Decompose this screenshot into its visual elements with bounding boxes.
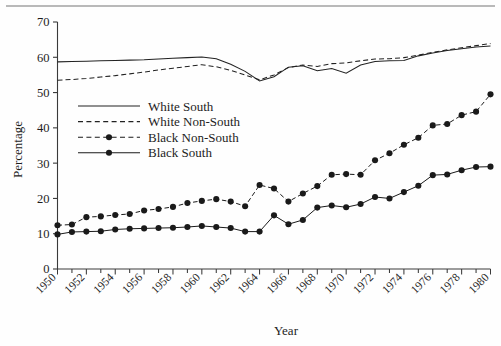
data-point [459,112,465,118]
y-axis-tick-label: 30 [37,157,50,171]
data-point [473,164,479,170]
data-point [430,172,436,178]
data-point [430,122,436,128]
x-axis-tick-label: 1954 [91,271,116,296]
series-line [58,44,491,81]
legend-item-label: Black Non-South [148,130,239,145]
data-point [98,213,104,219]
data-point [112,226,118,232]
legend-marker-sample [106,134,112,140]
y-axis-tick-label: 50 [37,86,50,100]
data-point [257,229,263,235]
data-point [257,182,263,188]
series-black-non-south [54,91,493,228]
data-point [358,172,364,178]
x-axis-tick-label: 1974 [380,271,405,296]
data-point [83,229,89,235]
x-axis-tick-label: 1964 [235,271,260,296]
legend-item-label: White South [148,99,214,114]
line-chart: 010203040506070Percentage195019521954195… [0,0,501,346]
data-point [170,204,176,210]
legend-item-label: White Non-South [148,114,241,129]
data-point [184,224,190,230]
data-point [343,204,349,210]
legend-item-label: Black South [148,145,212,160]
data-point [444,121,450,127]
data-point [314,205,320,211]
data-point [401,142,407,148]
data-point [83,214,89,220]
data-point [372,157,378,163]
y-axis-title: Percentage [10,121,25,178]
data-point [213,224,219,230]
y-axis-tick-label: 70 [37,15,50,29]
data-point [155,206,161,212]
x-axis-tick-label: 1960 [177,271,202,296]
data-point [343,171,349,177]
data-point [54,222,60,228]
data-point [170,225,176,231]
series-line [58,167,491,235]
data-point [415,135,421,141]
data-point [487,91,493,97]
legend-marker-sample [106,150,112,156]
data-point [127,211,133,217]
x-axis-title: Year [274,323,299,338]
data-point [271,186,277,192]
series-black-south [54,164,493,238]
data-point [386,195,392,201]
series-white-south [58,46,491,81]
data-point [228,199,234,205]
data-point [329,202,335,208]
data-point [155,225,161,231]
data-point [271,212,277,218]
x-axis-tick-label: 1962 [206,271,231,296]
data-point [69,221,75,227]
series-white-non-south [58,44,491,81]
data-point [285,221,291,227]
x-axis-tick-label: 1972 [351,271,376,296]
y-axis-tick-label: 10 [37,227,50,241]
data-point [69,229,75,235]
data-point [228,225,234,231]
data-point [213,196,219,202]
data-point [112,212,118,218]
x-axis-tick-label: 1978 [437,271,462,296]
data-point [141,225,147,231]
data-point [300,217,306,223]
chart-legend: White SouthWhite Non-SouthBlack Non-Sout… [78,99,241,161]
y-axis-tick-label: 40 [37,121,50,135]
x-axis-tick-label: 1952 [62,271,87,296]
data-point [386,150,392,156]
x-axis-tick-label: 1958 [149,271,174,296]
data-point [300,190,306,196]
data-point [459,167,465,173]
data-point [444,171,450,177]
data-point [199,198,205,204]
data-point [473,109,479,115]
x-axis-tick-label: 1956 [120,271,145,296]
data-point [285,199,291,205]
data-point [401,189,407,195]
x-axis-tick-label: 1950 [33,271,58,296]
x-axis-tick-label: 1976 [408,271,433,296]
x-axis-tick-label: 1968 [293,271,318,296]
data-point [329,172,335,178]
data-point [98,228,104,234]
y-axis-tick-label: 60 [37,51,50,65]
data-point [358,201,364,207]
data-point [127,226,133,232]
x-axis-tick-label: 1970 [322,271,347,296]
data-point [199,223,205,229]
data-point [372,194,378,200]
x-axis-tick-label: 1980 [466,271,491,296]
series-line [58,94,491,225]
data-point [242,203,248,209]
series-line [58,46,491,81]
data-point [487,164,493,170]
data-point [415,183,421,189]
data-point [184,200,190,206]
chart-figure: 010203040506070Percentage195019521954195… [0,0,501,346]
y-axis-tick-label: 20 [37,192,50,206]
data-point [242,229,248,235]
